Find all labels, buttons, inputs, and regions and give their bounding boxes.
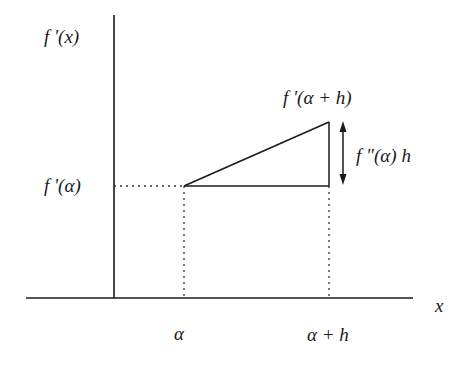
secant-line: [184, 122, 329, 186]
y-axis-label: f '(x): [44, 27, 79, 46]
x-axis-label: x: [435, 296, 443, 315]
f-prime-alpha-label: f '(α): [44, 176, 81, 195]
alpha-plus-h-tick-label: α + h: [307, 325, 349, 344]
f-prime-alpha-plus-h-label: f '(α + h): [283, 88, 352, 107]
increment-label: f "(α) h: [356, 146, 411, 165]
diagram-canvas: f '(x) f '(α) f '(α + h) f "(α) h α α + …: [0, 0, 460, 369]
double-arrow-icon: [340, 121, 347, 185]
alpha-tick-label: α: [174, 324, 184, 343]
